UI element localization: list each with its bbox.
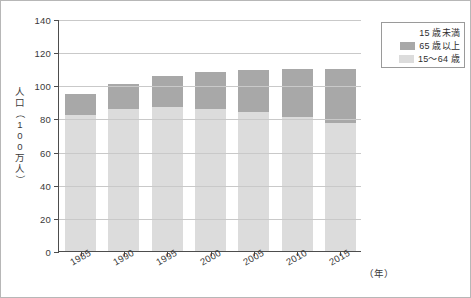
- y-axis-tick: [54, 86, 59, 87]
- y-axis-tick: [54, 252, 59, 253]
- chart-legend: 15 歳未満65 歳以上15～64 歳: [381, 22, 465, 68]
- bar-segment-working-age: [238, 112, 269, 251]
- y-axis-title-char: 0: [12, 141, 28, 152]
- y-axis-tick-label: 20: [40, 213, 51, 224]
- gridline: [59, 153, 361, 154]
- y-axis-tick-label: 0: [46, 247, 51, 258]
- gridline: [59, 86, 361, 87]
- bar-segment-working-age: [325, 123, 356, 251]
- y-axis-tick-label: 40: [40, 180, 51, 191]
- y-axis-tick-label: 100: [35, 81, 51, 92]
- x-axis-unit-label: （年）: [364, 266, 394, 280]
- plot-area: 020406080100120140: [58, 20, 361, 252]
- legend-item[interactable]: 15～64 歳: [385, 52, 460, 65]
- gridline: [59, 219, 361, 220]
- legend-item[interactable]: 65 歳以上: [385, 39, 460, 52]
- bar-segment-working-age: [108, 109, 139, 252]
- legend-swatch-senior: [400, 42, 415, 50]
- legend-label: 15 歳未満: [419, 26, 460, 39]
- bar-segment-working-age: [282, 117, 313, 251]
- bar-segment-senior: [238, 70, 269, 112]
- y-axis-title-char: ）: [15, 172, 26, 188]
- legend-swatch-child: [400, 29, 415, 37]
- bar-segment-senior: [65, 94, 96, 116]
- bar-segment-senior: [195, 72, 226, 108]
- y-axis-tick-label: 140: [35, 15, 51, 26]
- bar-segment-senior: [152, 76, 183, 107]
- bar-segment-senior: [282, 69, 313, 117]
- y-axis-tick-label: 60: [40, 147, 51, 158]
- y-axis-tick: [54, 186, 59, 187]
- chart-root: 人口（100万人） 020406080100120140 19851990199…: [0, 0, 471, 298]
- gridline: [59, 53, 361, 54]
- gridline: [59, 119, 361, 120]
- y-axis-tick: [54, 20, 59, 21]
- y-axis-title-char: 万: [12, 152, 28, 163]
- gridline: [59, 20, 361, 21]
- y-axis-tick: [54, 153, 59, 154]
- y-axis-title: 人口（100万人）: [12, 86, 28, 185]
- y-axis-tick-label: 80: [40, 114, 51, 125]
- y-axis-title-char: 人: [12, 86, 28, 97]
- legend-label: 65 歳以上: [419, 39, 460, 52]
- y-axis-tick: [54, 119, 59, 120]
- y-axis-title-char: （: [15, 106, 26, 122]
- legend-swatch-working: [399, 55, 414, 63]
- bar-segment-senior: [108, 84, 139, 108]
- gridline: [59, 186, 361, 187]
- y-axis-tick: [54, 53, 59, 54]
- legend-item[interactable]: 15 歳未満: [385, 26, 460, 39]
- bar-segment-working-age: [152, 107, 183, 251]
- bars-container: [59, 20, 361, 251]
- legend-label: 15～64 歳: [418, 52, 460, 65]
- y-axis-tick-label: 120: [35, 48, 51, 59]
- bar-segment-senior: [325, 69, 356, 124]
- bar-segment-working-age: [65, 115, 96, 251]
- y-axis-title-char: 0: [12, 130, 28, 141]
- y-axis-tick: [54, 219, 59, 220]
- bar-segment-working-age: [195, 109, 226, 252]
